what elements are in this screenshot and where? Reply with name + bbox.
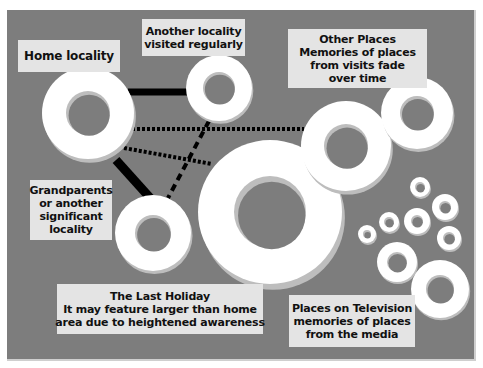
label-line: memories of places <box>293 315 410 328</box>
label-last-holiday: The Last Holiday It may feature larger t… <box>57 284 263 334</box>
ring-tv-6 <box>437 226 462 252</box>
label-line: Memories of places <box>299 46 416 59</box>
label-line: from visits fade <box>310 59 404 72</box>
ring-other-2 <box>381 77 454 152</box>
ring-tv-7 <box>377 242 418 284</box>
ring-tv-8 <box>411 260 470 320</box>
ring-tv-1 <box>410 177 431 199</box>
label-line: The Last Holiday <box>110 290 210 303</box>
ring-home <box>42 67 136 163</box>
label-line: or another <box>39 197 103 210</box>
label-line: Grandparents <box>30 184 113 197</box>
ring-tv-3 <box>404 208 431 236</box>
label-places-on-television: Places on Television memories of places … <box>289 295 415 347</box>
label-line: Places on Television <box>292 302 412 315</box>
ring-grandparents <box>115 195 193 274</box>
ring-another <box>186 55 253 124</box>
ring-tv-4 <box>379 212 400 234</box>
connection-home-holiday <box>124 148 212 164</box>
label-line: from the media <box>306 328 399 341</box>
label-line: significant <box>39 210 102 223</box>
label-line: visited regularly <box>144 38 242 51</box>
label-line: Other Places <box>319 33 396 46</box>
label-line: Home locality <box>24 50 114 63</box>
label-grandparents: Grandparents or another significant loca… <box>30 180 112 240</box>
label-another-locality: Another locality visited regularly <box>142 19 245 56</box>
label-line: locality <box>49 223 93 236</box>
connection-home-grandparents <box>116 160 152 200</box>
label-line: Another locality <box>146 25 242 38</box>
label-other-places: Other Places Memories of places from vis… <box>288 29 427 88</box>
label-line: It may feature larger than home <box>63 303 257 316</box>
label-line: over time <box>329 72 387 85</box>
ring-tv-5 <box>358 225 377 245</box>
ring-tv-2 <box>432 194 459 222</box>
label-home-locality: Home locality <box>18 40 120 72</box>
label-line: area due to heightened awareness <box>55 316 265 329</box>
